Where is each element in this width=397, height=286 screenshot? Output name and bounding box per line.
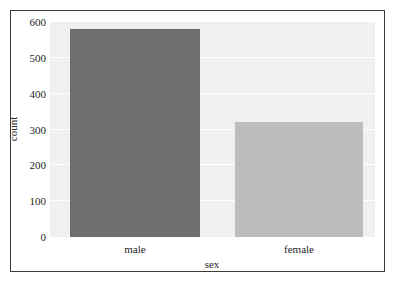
bar-male: [70, 29, 200, 237]
x-tick-label-male: male: [124, 243, 145, 255]
bar-chart-figure: 0100200300400500600 count malefemale sex: [0, 0, 397, 286]
x-axis-title: sex: [205, 258, 220, 270]
bar-female: [235, 122, 363, 237]
plot-area: [50, 22, 375, 237]
y-axis-title: count: [7, 117, 19, 141]
x-tick-label-female: female: [284, 243, 314, 255]
